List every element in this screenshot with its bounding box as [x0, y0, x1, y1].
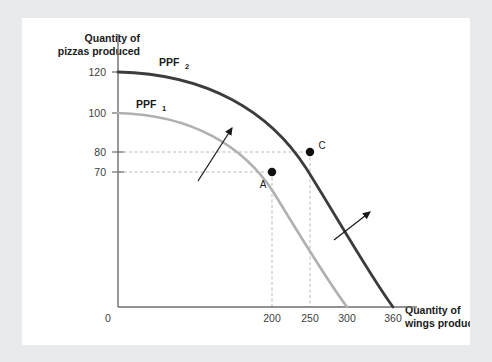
y-axis-title-line1: Quantity of	[85, 32, 141, 44]
data-point-a-label: A	[260, 179, 267, 190]
ppf2-label: PPF	[159, 56, 180, 68]
x-tick-label-200: 200	[263, 312, 281, 324]
x-axis-title-line1: Quantity of	[405, 304, 461, 316]
ppf2-label-subscript: 2	[185, 62, 189, 71]
x-axis-ticks: 0 200 250 300 360	[105, 312, 402, 324]
x-tick-label-300: 300	[338, 312, 356, 324]
x-tick-label-0: 0	[105, 312, 111, 324]
point-c-group[interactable]: C	[306, 140, 326, 156]
shift-arrow-upper	[198, 128, 232, 181]
shift-arrow-lower	[334, 212, 370, 240]
ppf-chart: Quantity of pizzas produced Quantity of …	[22, 18, 470, 345]
ppf2-curve	[118, 72, 393, 307]
data-point-c-label: C	[318, 140, 325, 151]
data-point-c[interactable]	[306, 148, 314, 156]
y-axis-title-line2: pizzas produced	[58, 45, 140, 57]
y-tick-label-70: 70	[94, 166, 106, 178]
ppf2-label-group: PPF 2	[159, 56, 189, 71]
figure-card: Quantity of pizzas produced Quantity of …	[22, 18, 470, 345]
y-tick-label-120: 120	[88, 66, 106, 78]
ppf1-label: PPF	[136, 98, 157, 110]
x-axis-title-line2: wings produced	[404, 317, 470, 329]
y-tick-label-100: 100	[88, 107, 106, 119]
y-tick-label-80: 80	[94, 146, 106, 158]
ppf1-label-subscript: 1	[162, 104, 166, 113]
ppf1-curve	[118, 113, 347, 307]
x-tick-label-250: 250	[301, 312, 319, 324]
guide-lines	[118, 152, 310, 307]
point-a-group[interactable]: A	[260, 168, 277, 190]
x-tick-label-360: 360	[384, 312, 402, 324]
ppf1-label-group: PPF 1	[136, 98, 166, 113]
data-point-a[interactable]	[268, 168, 276, 176]
